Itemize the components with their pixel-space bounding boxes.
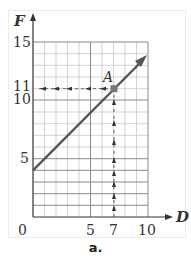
point-a-marker bbox=[111, 85, 118, 92]
y-tick-15: 15 bbox=[13, 34, 31, 50]
figure-caption: a. bbox=[0, 240, 191, 255]
y-axis-label: F bbox=[13, 12, 26, 30]
y-tick-10: 10 bbox=[13, 91, 31, 107]
vertical-dashed-arrows bbox=[112, 95, 116, 217]
point-a-label: A bbox=[101, 69, 113, 85]
x-tick-10: 10 bbox=[138, 222, 156, 238]
grid-major bbox=[33, 42, 148, 217]
x-tick-7: 7 bbox=[109, 222, 118, 238]
y-axis-arrow-icon bbox=[30, 13, 36, 21]
axes bbox=[30, 13, 173, 220]
x-axis-arrow-icon bbox=[165, 214, 173, 220]
x-axis-label: D bbox=[175, 208, 189, 226]
x-tick-0: 0 bbox=[18, 222, 27, 238]
y-tick-5: 5 bbox=[20, 150, 29, 166]
chart-plot: F D A 15 11 10 5 0 5 7 10 bbox=[0, 0, 191, 240]
x-tick-5: 5 bbox=[86, 222, 95, 238]
